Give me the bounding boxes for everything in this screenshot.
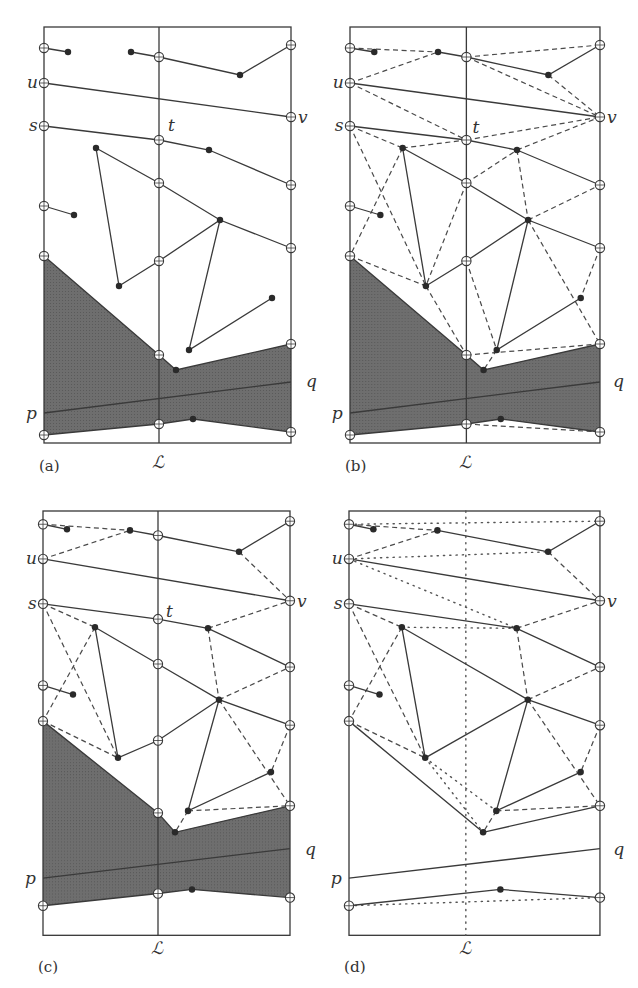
caption-c: (c) [38, 958, 58, 976]
label-s: s [335, 115, 344, 135]
triangulation-edges [349, 524, 600, 832]
label-v: v [297, 591, 307, 611]
label-q: q [306, 371, 317, 391]
deleted-edges [349, 521, 600, 906]
panel-c: u v s t p q ℒ (c) [25, 511, 316, 976]
label-L: ℒ [459, 452, 472, 472]
label-t: t [166, 601, 173, 621]
panel-d: u v s p q ℒ (d) [331, 511, 625, 976]
panel-b: u v s t p q ℒ (b) [332, 27, 624, 475]
input-segments [349, 521, 600, 906]
label-s: s [334, 593, 343, 613]
label-t: t [168, 115, 175, 135]
label-p: p [26, 403, 37, 423]
figure: u v s t p q ℒ (a) [0, 0, 638, 988]
label-v: v [607, 591, 617, 611]
label-s: s [29, 115, 38, 135]
bounding-box [349, 511, 600, 935]
panel-a: u v s t p q ℒ (a) [26, 27, 317, 475]
label-L: ℒ [151, 938, 164, 958]
caption-b: (b) [345, 457, 367, 475]
caption-a: (a) [39, 457, 60, 475]
caption-d: (d) [344, 958, 366, 976]
label-p: p [332, 403, 343, 423]
label-v: v [607, 107, 617, 127]
label-L: ℒ [152, 452, 165, 472]
shaded-region [43, 721, 290, 906]
label-u: u [26, 548, 37, 568]
label-s: s [28, 593, 37, 613]
label-q: q [305, 839, 316, 859]
label-L: ℒ [459, 938, 472, 958]
label-p: p [25, 868, 36, 888]
label-u: u [27, 72, 38, 92]
label-v: v [298, 107, 308, 127]
label-q: q [613, 839, 624, 859]
label-q: q [613, 371, 624, 391]
label-p: p [331, 868, 342, 888]
label-t: t [472, 117, 479, 137]
label-u: u [333, 72, 344, 92]
label-u: u [332, 548, 343, 568]
